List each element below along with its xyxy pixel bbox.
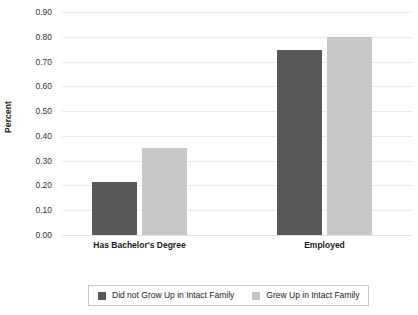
x-axis-category-label: Employed (245, 240, 405, 250)
legend-item[interactable]: Grew Up in Intact Family (252, 291, 359, 300)
gridline (62, 12, 412, 13)
y-axis-tick-label: 0.00 (0, 231, 52, 240)
y-axis-tick-label: 0.70 (0, 58, 52, 67)
x-axis-category-label: Has Bachelor's Degree (60, 240, 220, 250)
legend-item[interactable]: Did not Grow Up in Intact Family (98, 291, 234, 300)
bar (142, 148, 187, 235)
y-axis-tick-label: 0.90 (0, 8, 52, 17)
y-axis-tick-label: 0.10 (0, 206, 52, 215)
legend-label: Grew Up in Intact Family (266, 291, 359, 300)
bar (277, 50, 322, 235)
chart-legend: Did not Grow Up in Intact FamilyGrew Up … (88, 285, 369, 306)
legend-swatch-icon (98, 292, 106, 300)
y-axis-tick-label: 0.40 (0, 132, 52, 141)
y-axis-tick-label: 0.60 (0, 82, 52, 91)
bar (92, 182, 137, 235)
y-axis-tick-label: 0.80 (0, 33, 52, 42)
gridline (62, 235, 412, 236)
y-axis-tick-label: 0.30 (0, 157, 52, 166)
legend-swatch-icon (252, 292, 260, 300)
y-axis-tick-label: 0.20 (0, 181, 52, 190)
bar (327, 37, 372, 235)
y-axis-tick-label: 0.50 (0, 107, 52, 116)
bar-chart: Percent 0.900.800.700.600.500.400.300.20… (0, 0, 418, 315)
plot-area: 0.900.800.700.600.500.400.300.200.100.00 (62, 12, 412, 235)
legend-label: Did not Grow Up in Intact Family (112, 291, 234, 300)
